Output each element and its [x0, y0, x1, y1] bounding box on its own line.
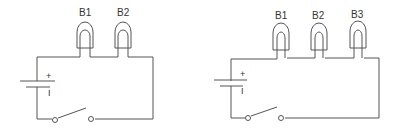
- svg-text:I: I: [241, 86, 244, 96]
- switch-icon: [246, 107, 284, 121]
- circuit-right: + I B1 B2 B3: [214, 9, 379, 121]
- wire: [37, 57, 153, 119]
- bulb-icon: B3: [350, 9, 366, 58]
- bulb-icon: B2: [115, 7, 131, 57]
- bulb-icon: B1: [77, 7, 93, 57]
- bulb-icon: B2: [311, 10, 327, 58]
- switch-icon: [53, 108, 94, 123]
- bulb-icon: B1: [273, 10, 289, 59]
- svg-text:+: +: [46, 71, 51, 81]
- svg-text:B1: B1: [79, 7, 92, 18]
- svg-text:B3: B3: [351, 9, 364, 20]
- svg-text:B2: B2: [117, 7, 130, 18]
- wire: [231, 58, 379, 118]
- circuit-left: + I B1 B2: [20, 7, 153, 123]
- svg-text:B1: B1: [275, 10, 288, 21]
- svg-text:B2: B2: [312, 10, 325, 21]
- svg-text:+: +: [240, 69, 245, 79]
- svg-text:I: I: [48, 88, 51, 98]
- circuit-diagrams: + I B1 B2 + I: [0, 0, 397, 132]
